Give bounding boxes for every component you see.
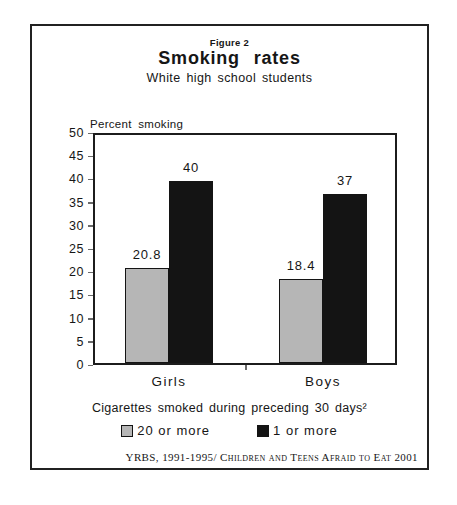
bar-girls-20-or-more [125, 268, 169, 363]
y-tick-label-15: 15 [34, 287, 84, 303]
y-tick-label-45: 45 [34, 148, 84, 164]
bar-boys-1-or-more [323, 194, 367, 363]
y-tick-label-10: 10 [34, 311, 84, 327]
scanned-page: Figure 2 Smoking rates White high school… [0, 0, 457, 505]
y-tick-label-40: 40 [34, 171, 84, 187]
y-tick-label-30: 30 [34, 218, 84, 234]
figure-frame: Figure 2 Smoking rates White high school… [30, 24, 429, 470]
chart-subtitle: White high school students [32, 71, 427, 85]
figure-number: Figure 2 [32, 37, 427, 48]
legend-item-20-or-more: 20 or more [121, 423, 210, 438]
legend-swatch-icon [121, 425, 133, 437]
bar-value-girls-1-or-more: 40 [183, 160, 199, 175]
plot-area: 20.84018.437 [93, 133, 397, 365]
y-tick-label-25: 25 [34, 241, 84, 257]
legend-swatch-icon [257, 425, 269, 437]
legend-caption: Cigarettes smoked during preceding 30 da… [32, 401, 427, 415]
bar-value-boys-20-or-more: 18.4 [287, 258, 316, 273]
bar-value-girls-20-or-more: 20.8 [133, 247, 162, 262]
bar-boys-20-or-more [279, 279, 323, 363]
legend-label: 1 or more [273, 423, 338, 438]
chart-title: Smoking rates [32, 48, 427, 69]
y-axis-title: Percent smoking [90, 118, 183, 130]
y-tick-label-35: 35 [34, 195, 84, 211]
y-tick-label-50: 50 [34, 125, 84, 141]
legend: 20 or more1 or more [32, 423, 427, 438]
legend-item-1-or-more: 1 or more [257, 423, 338, 438]
bar-value-boys-1-or-more: 37 [337, 173, 353, 188]
y-tick-label-5: 5 [34, 334, 84, 350]
x-category-label-boys: Boys [305, 374, 341, 389]
x-axis-labels: GirlsBoys [93, 372, 397, 390]
source-credit: YRBS, 1991-1995/ Children and Teens Afra… [126, 451, 418, 463]
y-tick-label-0: 0 [34, 357, 84, 373]
y-tick-label-20: 20 [34, 264, 84, 280]
legend-label: 20 or more [137, 423, 210, 438]
x-axis-center-tick [245, 365, 247, 370]
bar-girls-1-or-more [169, 181, 213, 363]
y-axis: 05101520253035404550 [32, 133, 88, 365]
x-category-label-girls: Girls [151, 374, 186, 389]
